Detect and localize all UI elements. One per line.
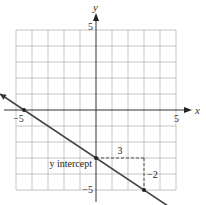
y-axis-label: y (92, 1, 98, 13)
point-x-intercept (22, 108, 26, 112)
series (0, 94, 202, 205)
x-axis-arrow-icon (184, 107, 192, 113)
point-second-point (142, 188, 146, 192)
series-line (0, 94, 202, 205)
y-intercept-label: y intercept (50, 158, 93, 169)
x-tick-label: −5 (13, 113, 24, 124)
slope-triangle: 3−2 (96, 145, 158, 190)
run-label: 3 (118, 145, 123, 156)
labels: x y (92, 1, 200, 116)
y-tick-label: 5 (88, 21, 93, 32)
y-axis-arrow-icon (93, 13, 99, 21)
x-axis-label: x (194, 104, 200, 116)
point-y-intercept (94, 156, 98, 160)
x-tick-label: 5 (174, 113, 179, 124)
chart: −555−5 3−2 y intercept x y (0, 0, 206, 205)
rise-label: −2 (147, 169, 158, 180)
y-tick-label: −5 (82, 184, 93, 195)
